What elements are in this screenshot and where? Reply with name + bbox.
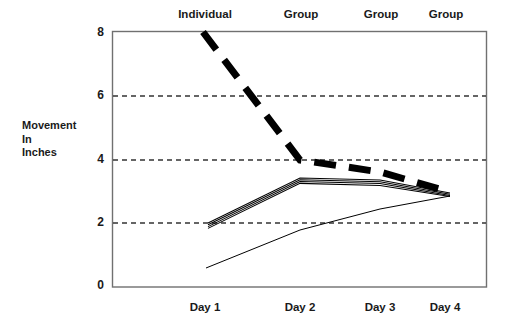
series-group-bundle-line-3 bbox=[208, 182, 450, 227]
series-group-bundle-line-1 bbox=[208, 178, 450, 223]
chart-container: MovementInInches 8 6 4 2 0 Individual Gr… bbox=[0, 0, 508, 331]
series-individual-thick-dashed bbox=[203, 32, 450, 192]
series-group-lower-line bbox=[206, 196, 450, 268]
plot-svg bbox=[0, 0, 508, 331]
series-group-bundle-line-4 bbox=[208, 183, 450, 228]
